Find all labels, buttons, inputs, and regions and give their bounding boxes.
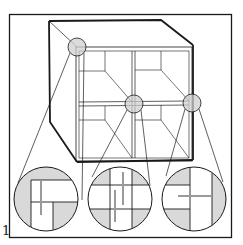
detail-right-tee [162,167,226,231]
marker-top-left [68,38,86,56]
figure-number: 1 [2,224,10,237]
marker-center [125,95,143,113]
detail-center-cross [88,167,152,231]
shelf-diagram [0,0,243,245]
detail-top-left-corner [14,167,83,232]
marker-right [183,94,201,112]
